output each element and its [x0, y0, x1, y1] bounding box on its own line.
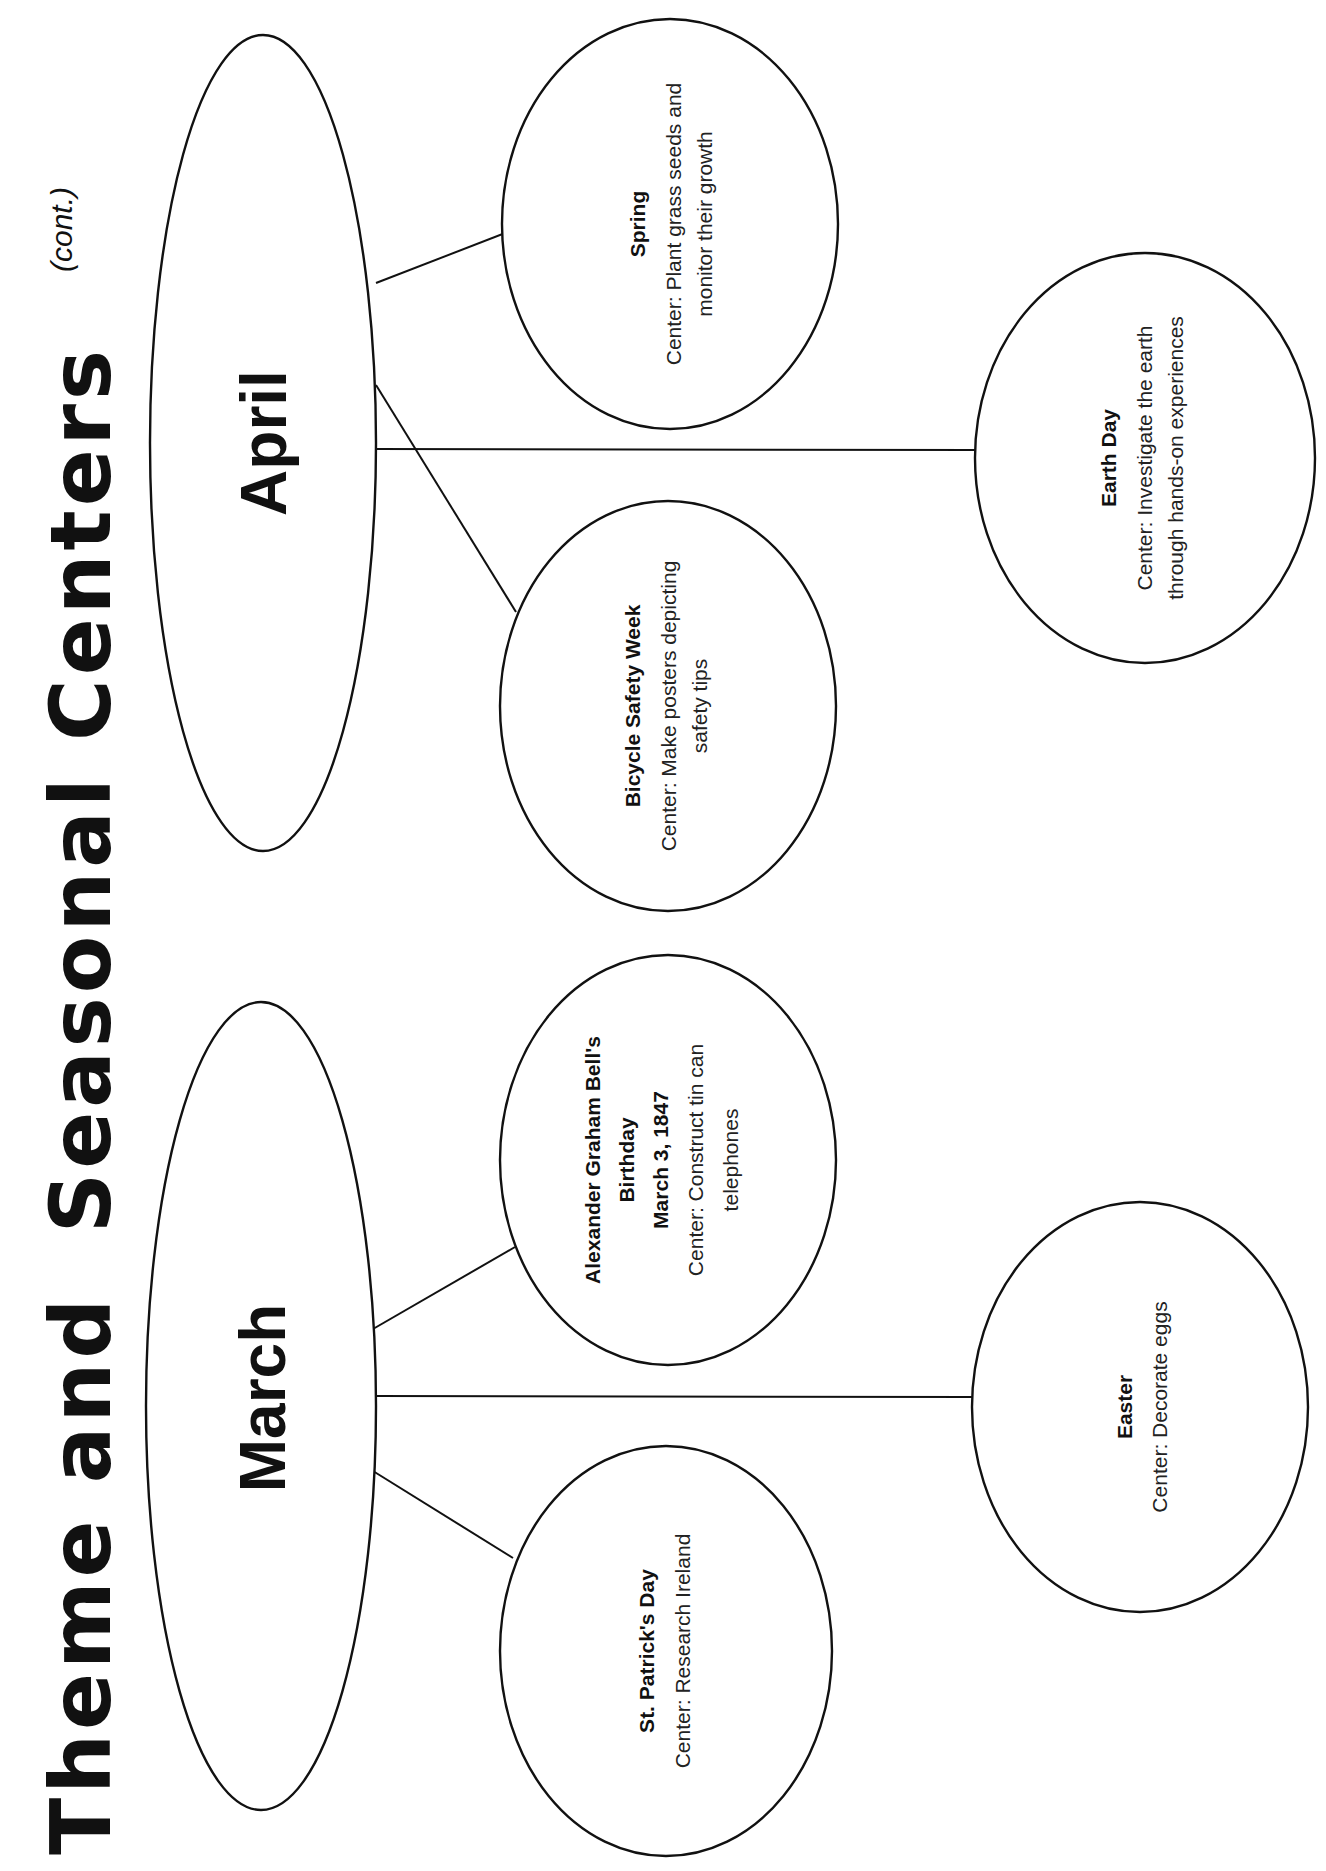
center-title: St. Patrick's Day [635, 1569, 658, 1733]
page-title: Theme and Seasonal Centers (cont.) [32, 187, 130, 1855]
center-node-earth-day: Earth Day Center: Investigate the earth … [975, 253, 1315, 663]
connector-april-earth-day [376, 449, 975, 450]
web-diagram: Theme and Seasonal Centers (cont.) April… [0, 0, 1326, 1871]
center-desc-line: monitor their growth [693, 131, 716, 317]
center-title-line: March 3, 1847 [649, 1091, 672, 1229]
center-desc-line: safety tips [688, 659, 711, 754]
month-label-april: April [228, 370, 300, 516]
connector-april-bicycle [376, 385, 516, 612]
center-node-st-patricks-day: St. Patrick's Day Center: Research Irela… [500, 1446, 832, 1856]
month-label-march: March [227, 1304, 299, 1493]
center-desc-line: Center: Decorate eggs [1148, 1301, 1171, 1512]
center-node-bell-birthday: Alexander Graham Bell's Birthday March 3… [500, 955, 836, 1365]
center-desc-line: Center: Plant grass seeds and [662, 83, 685, 366]
center-title: Bicycle Safety Week [621, 604, 644, 807]
center-desc-line: Center: Make posters depicting [657, 561, 680, 852]
march-cluster: March Alexander Graham Bell's Birthday M… [146, 955, 1308, 1856]
center-title-line: Alexander Graham Bell's [581, 1036, 604, 1284]
connector-march-st-patricks [373, 1471, 513, 1558]
center-desc-line: through hands-on experiences [1164, 316, 1187, 600]
center-desc-line: Center: Investigate the earth [1133, 326, 1156, 591]
title-main: Theme and Seasonal Centers [32, 346, 130, 1855]
connector-march-bell [373, 1247, 515, 1329]
center-desc-line: telephones [719, 1109, 742, 1212]
center-title: Earth Day [1097, 409, 1120, 507]
center-title: Easter [1113, 1375, 1136, 1439]
center-desc-line: Center: Construct tin can [684, 1044, 707, 1276]
connector-march-easter [376, 1396, 972, 1397]
center-node-easter: Easter Center: Decorate eggs [972, 1202, 1308, 1612]
center-node-spring: Spring Center: Plant grass seeds and mon… [502, 19, 838, 429]
center-node-bicycle-safety-week: Bicycle Safety Week Center: Make posters… [500, 501, 836, 911]
april-cluster: April Spring Center: Plant grass seeds a… [150, 19, 1315, 911]
center-title: Spring [626, 191, 649, 258]
center-title-line: Birthday [615, 1117, 638, 1203]
title-cont-suffix: (cont.) [45, 187, 78, 272]
connector-april-spring [376, 230, 513, 283]
center-desc-line: Center: Research Ireland [671, 1534, 694, 1769]
